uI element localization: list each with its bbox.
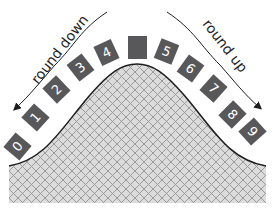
round-up-label: round up <box>200 16 251 75</box>
rounding-bell-curve-diagram: round down round up 0123456789 <box>0 0 275 213</box>
digit-label <box>128 36 147 59</box>
digit-box-center <box>128 36 147 59</box>
